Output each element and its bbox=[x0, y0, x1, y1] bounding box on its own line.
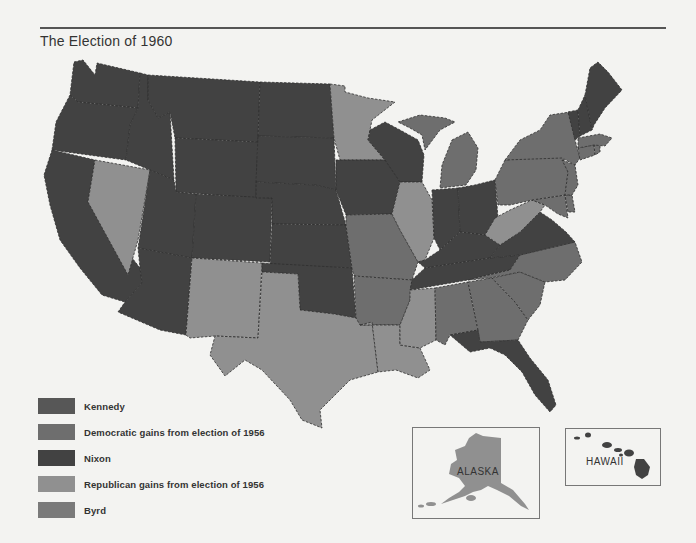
legend-item-republican-gains: Republican gains from election of 1956 bbox=[38, 471, 265, 497]
legend: Kennedy Democratic gains from election o… bbox=[38, 393, 265, 523]
state-WY[interactable] bbox=[175, 138, 258, 198]
state-ME[interactable] bbox=[585, 62, 622, 130]
hawaii-island-maui bbox=[624, 450, 634, 457]
alaska-label: ALASKA bbox=[457, 466, 499, 477]
state-FL[interactable] bbox=[450, 330, 556, 412]
state-HI[interactable] bbox=[634, 459, 650, 479]
legend-label: Republican gains from election of 1956 bbox=[84, 479, 264, 490]
legend-label: Byrd bbox=[84, 505, 106, 516]
swatch-nixon bbox=[38, 450, 75, 466]
swatch-democratic-gains bbox=[38, 424, 75, 440]
state-WA[interactable] bbox=[70, 60, 140, 108]
legend-label: Kennedy bbox=[84, 401, 125, 412]
swatch-byrd bbox=[38, 502, 75, 518]
legend-item-kennedy: Kennedy bbox=[38, 393, 265, 419]
legend-label: Democratic gains from election of 1956 bbox=[84, 427, 265, 438]
legend-item-nixon: Nixon bbox=[38, 445, 265, 471]
alaska-inset: ALASKA bbox=[412, 427, 540, 519]
state-NY[interactable] bbox=[505, 112, 580, 165]
alaska-island bbox=[466, 495, 476, 501]
state-NM[interactable] bbox=[186, 258, 262, 338]
state-KS[interactable] bbox=[270, 224, 352, 268]
alaska-island bbox=[426, 502, 436, 506]
hawaii-inset: HAWAII bbox=[565, 428, 661, 486]
state-ND[interactable] bbox=[258, 82, 334, 138]
alaska-island bbox=[418, 505, 424, 508]
hawaii-island-oahu bbox=[602, 442, 612, 448]
state-SD[interactable] bbox=[256, 136, 336, 190]
legend-item-byrd: Byrd bbox=[38, 497, 265, 523]
legend-item-democratic-gains: Democratic gains from election of 1956 bbox=[38, 419, 265, 445]
legend-label: Nixon bbox=[84, 453, 111, 464]
swatch-republican-gains bbox=[38, 476, 75, 492]
hawaii-island-molokai bbox=[614, 448, 622, 452]
swatch-kennedy bbox=[38, 398, 75, 414]
hawaii-island-niihau bbox=[574, 437, 580, 440]
state-CO[interactable] bbox=[192, 194, 272, 262]
hawaii-island-kauai bbox=[585, 433, 591, 438]
hawaii-label: HAWAII bbox=[586, 456, 624, 467]
